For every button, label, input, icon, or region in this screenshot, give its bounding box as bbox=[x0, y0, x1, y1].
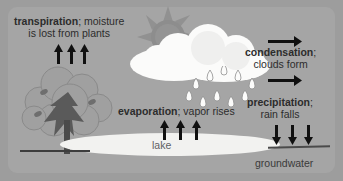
arrow-down-icon bbox=[304, 125, 313, 145]
arrow-right-icon bbox=[268, 72, 302, 83]
condensation-rest: ; bbox=[313, 46, 316, 58]
ground-line bbox=[20, 150, 90, 152]
precipitation-label: precipitation; rain falls bbox=[247, 96, 313, 121]
precipitation-rest: ; bbox=[310, 96, 313, 108]
arrow-up-icon bbox=[176, 120, 185, 140]
transpiration-label: transpiration; moisture is lost from pla… bbox=[14, 15, 124, 40]
precipitation-line2: rain falls bbox=[247, 108, 313, 120]
condensation-term: condensation bbox=[245, 46, 313, 58]
transpiration-term: transpiration bbox=[14, 15, 78, 27]
arrow-up-icon bbox=[67, 44, 76, 64]
arrow-up-icon bbox=[160, 120, 169, 140]
transpiration-line2: is lost from plants bbox=[14, 27, 124, 39]
arrow-up-icon bbox=[80, 44, 89, 64]
transpiration-rest: ; moisture bbox=[78, 15, 124, 27]
arrow-up-icon bbox=[54, 44, 63, 64]
evaporation-term: evaporation bbox=[118, 105, 178, 117]
condensation-line2: clouds form bbox=[245, 58, 316, 70]
lake-label: lake bbox=[152, 139, 171, 151]
precipitation-term: precipitation bbox=[247, 96, 310, 108]
arrow-up-icon bbox=[192, 120, 201, 140]
evaporation-rest: ; vapor rises bbox=[178, 105, 235, 117]
groundwater-label: groundwater bbox=[255, 157, 313, 169]
condensation-label: condensation; clouds form bbox=[245, 46, 316, 71]
arrow-down-icon bbox=[272, 125, 281, 145]
arrow-down-icon bbox=[288, 125, 297, 145]
water-cycle-diagram: transpiration; moisture is lost from pla… bbox=[0, 0, 343, 181]
arrow-right-icon bbox=[268, 33, 302, 44]
evaporation-label: evaporation; vapor rises bbox=[118, 105, 235, 117]
